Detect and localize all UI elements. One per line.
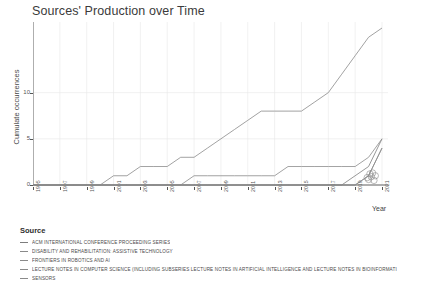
legend-item-label: LECTURE NOTES IN COMPUTER SCIENCE (INCLU… bbox=[32, 267, 397, 272]
series-line bbox=[33, 139, 382, 185]
legend-item[interactable]: ACM INTERNATIONAL CONFERENCE PROCEEDING … bbox=[20, 238, 420, 246]
x-tick-mark bbox=[60, 187, 61, 190]
x-tick-mark bbox=[355, 187, 356, 190]
x-tick-mark bbox=[248, 187, 249, 190]
x-tick-mark bbox=[167, 187, 168, 190]
legend-item[interactable]: SENSORS bbox=[20, 275, 420, 283]
data-point-marker bbox=[372, 173, 378, 179]
x-tick-mark bbox=[140, 187, 141, 190]
chart-root: Sources' Production over Time Cumulate o… bbox=[0, 0, 424, 287]
y-axis-title: Cumulate occurrences bbox=[0, 0, 7, 58]
y-tick-label: 5 bbox=[12, 135, 30, 141]
legend-item[interactable]: LECTURE NOTES IN COMPUTER SCIENCE (INCLU… bbox=[20, 266, 420, 274]
y-axis-title-text: Cumulate occurrences bbox=[12, 52, 21, 162]
legend-swatch-icon bbox=[20, 242, 28, 243]
legend-swatch-icon bbox=[20, 269, 28, 270]
legend-item-label: SENSORS bbox=[32, 276, 56, 281]
y-tick-label: 0 bbox=[12, 181, 30, 187]
legend: Source ACM INTERNATIONAL CONFERENCE PROC… bbox=[20, 226, 420, 284]
x-tick-mark bbox=[114, 187, 115, 190]
plot-area bbox=[33, 22, 388, 187]
x-tick-mark bbox=[328, 187, 329, 190]
x-axis-title: Year bbox=[372, 205, 386, 212]
legend-swatch-icon bbox=[20, 278, 28, 279]
x-tick-mark bbox=[382, 187, 383, 190]
legend-item-label: FRONTIERS IN ROBOTICS AND AI bbox=[32, 258, 110, 263]
x-tick-mark bbox=[275, 187, 276, 190]
x-tick-mark bbox=[87, 187, 88, 190]
legend-item-label: ACM INTERNATIONAL CONFERENCE PROCEEDING … bbox=[32, 240, 170, 245]
legend-item[interactable]: FRONTIERS IN ROBOTICS AND AI bbox=[20, 256, 420, 264]
x-tick-mark bbox=[194, 187, 195, 190]
x-tick-mark bbox=[221, 187, 222, 190]
chart-title: Sources' Production over Time bbox=[32, 4, 205, 18]
legend-swatch-icon bbox=[20, 260, 28, 261]
x-tick-mark bbox=[33, 187, 34, 190]
legend-items: ACM INTERNATIONAL CONFERENCE PROCEEDING … bbox=[20, 238, 420, 283]
y-tick-label: 10 bbox=[12, 89, 30, 95]
legend-swatch-icon bbox=[20, 251, 28, 252]
plot-svg bbox=[33, 22, 388, 187]
legend-item-label: DISABILITY AND REHABILITATION: ASSISTIVE… bbox=[32, 249, 173, 254]
legend-item[interactable]: DISABILITY AND REHABILITATION: ASSISTIVE… bbox=[20, 247, 420, 255]
series-line bbox=[33, 139, 382, 185]
x-tick-mark bbox=[301, 187, 302, 190]
series-line bbox=[33, 28, 382, 185]
legend-title: Source bbox=[20, 226, 420, 235]
